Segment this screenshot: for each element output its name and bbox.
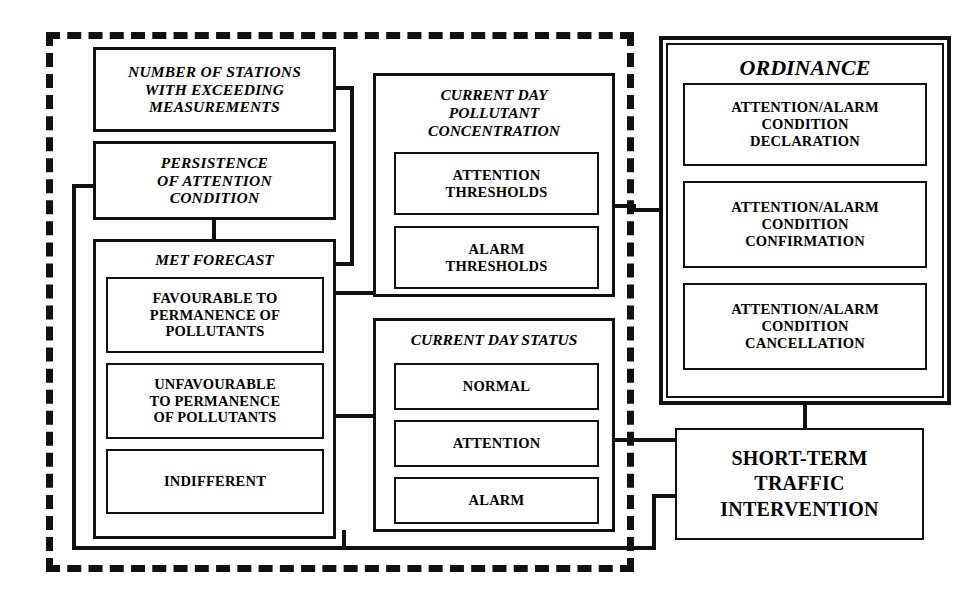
box-status-normal-label: NORMAL xyxy=(463,378,530,395)
box-number-of-stations[interactable]: NUMBER OF STATIONS WITH EXCEEDING MEASUR… xyxy=(93,47,336,132)
box-ordinance-confirmation[interactable]: ATTENTION/ALARM CONDITION CONFIRMATION xyxy=(683,181,927,268)
group-met-forecast-title: MET FORECAST xyxy=(96,251,333,269)
diagram-canvas: NUMBER OF STATIONS WITH EXCEEDING MEASUR… xyxy=(0,0,965,604)
connector-metforecast-to-concentration xyxy=(336,291,376,295)
box-met-favourable[interactable]: FAVOURABLE TO PERMANENCE OF POLLUTANTS xyxy=(106,277,324,353)
group-ordinance-title: ORDINANCE xyxy=(668,55,942,81)
box-ordinance-declaration[interactable]: ATTENTION/ALARM CONDITION DECLARATION xyxy=(683,83,927,166)
box-attention-thresholds[interactable]: ATTENTION THRESHOLDS xyxy=(394,152,599,215)
box-met-unfavourable-label: UNFAVOURABLE TO PERMANENCE OF POLLUTANTS xyxy=(150,376,281,426)
group-current-day-status-title: CURRENT DAY STATUS xyxy=(376,331,612,349)
connector-into-metforecast-right xyxy=(334,262,354,266)
box-number-of-stations-label: NUMBER OF STATIONS WITH EXCEEDING MEASUR… xyxy=(128,63,301,117)
connector-rail-right xyxy=(496,546,656,550)
box-met-indifferent-label: INDIFFERENT xyxy=(164,473,266,490)
box-met-indifferent[interactable]: INDIFFERENT xyxy=(106,449,324,514)
box-persistence-of-attention-condition[interactable]: PERSISTENCE OF ATTENTION CONDITION xyxy=(93,141,336,220)
box-status-attention[interactable]: ATTENTION xyxy=(394,420,599,467)
group-concentration-title: CURRENT DAY POLLUTANT CONCENTRATION xyxy=(376,86,612,140)
box-alarm-thresholds-label: ALARM THRESHOLDS xyxy=(446,241,548,275)
box-attention-thresholds-label: ATTENTION THRESHOLDS xyxy=(446,167,548,201)
connector-bottom-rail xyxy=(72,546,500,550)
box-ordinance-cancellation-label: ATTENTION/ALARM CONDITION CANCELLATION xyxy=(731,301,879,351)
connector-rail-to-status xyxy=(342,530,346,548)
connector-metforecast-to-status xyxy=(336,414,378,418)
connector-into-intervention-lower xyxy=(652,494,676,498)
box-short-term-traffic-intervention[interactable]: SHORT-TERM TRAFFIC INTERVENTION xyxy=(675,428,924,540)
box-status-alarm[interactable]: ALARM xyxy=(394,477,599,524)
box-ordinance-cancellation[interactable]: ATTENTION/ALARM CONDITION CANCELLATION xyxy=(683,283,927,370)
connector-ordinance-to-intervention xyxy=(803,402,807,430)
box-ordinance-confirmation-label: ATTENTION/ALARM CONDITION CONFIRMATION xyxy=(731,199,879,249)
box-status-normal[interactable]: NORMAL xyxy=(394,363,599,410)
connector-persistence-to-metforecast xyxy=(212,218,216,240)
connector-persistence-left-down xyxy=(72,184,76,550)
box-ordinance-declaration-label: ATTENTION/ALARM CONDITION DECLARATION xyxy=(731,99,879,149)
box-status-attention-label: ATTENTION xyxy=(453,435,541,452)
connector-rail-up-to-intervention xyxy=(652,494,656,550)
box-short-term-traffic-intervention-label: SHORT-TERM TRAFFIC INTERVENTION xyxy=(720,446,878,523)
connector-stations-down xyxy=(350,86,354,266)
connector-status-to-intervention xyxy=(614,438,676,442)
box-persistence-label: PERSISTENCE OF ATTENTION CONDITION xyxy=(157,154,272,208)
box-met-favourable-label: FAVOURABLE TO PERMANENCE OF POLLUTANTS xyxy=(150,290,280,340)
box-met-unfavourable[interactable]: UNFAVOURABLE TO PERMANENCE OF POLLUTANTS xyxy=(106,363,324,439)
box-status-alarm-label: ALARM xyxy=(469,492,525,509)
box-alarm-thresholds[interactable]: ALARM THRESHOLDS xyxy=(394,226,599,289)
